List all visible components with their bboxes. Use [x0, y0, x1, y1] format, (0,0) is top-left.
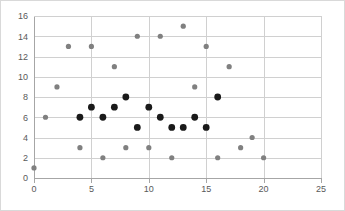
data-point — [192, 84, 197, 89]
data-point — [88, 104, 95, 111]
data-point — [203, 124, 210, 131]
data-point — [89, 44, 94, 49]
data-point — [100, 155, 105, 160]
data-point — [122, 94, 129, 101]
x-axis-tick-label: 5 — [89, 184, 94, 194]
data-point — [204, 44, 209, 49]
data-point — [145, 104, 152, 111]
data-point — [214, 94, 221, 101]
data-point — [238, 145, 243, 150]
y-axis-tick-label: 16 — [18, 11, 28, 21]
data-point — [169, 155, 174, 160]
data-point — [250, 135, 255, 140]
data-point — [54, 84, 59, 89]
data-point — [168, 124, 175, 131]
data-point — [77, 114, 84, 121]
data-point — [99, 114, 106, 121]
data-point — [157, 114, 164, 121]
series-series-black — [77, 94, 222, 131]
chart-container: 02468101214160510152025 — [0, 0, 345, 211]
data-point — [191, 114, 198, 121]
data-point — [43, 115, 48, 120]
y-axis-tick-label: 4 — [23, 133, 28, 143]
data-point — [215, 155, 220, 160]
x-axis-tick-label: 20 — [259, 184, 269, 194]
data-point — [123, 145, 128, 150]
data-point — [181, 24, 186, 29]
scatter-plot: 02468101214160510152025 — [1, 1, 345, 211]
data-point — [111, 104, 118, 111]
data-point — [146, 145, 151, 150]
y-axis-tick-label: 2 — [23, 153, 28, 163]
x-axis-tick-label: 0 — [31, 184, 36, 194]
y-axis-tick-label: 0 — [23, 173, 28, 183]
y-axis-tick-label: 8 — [23, 92, 28, 102]
data-point — [134, 124, 141, 131]
y-axis-tick-label: 10 — [18, 72, 28, 82]
x-axis-tick-label: 15 — [201, 184, 211, 194]
x-axis-tick-label: 10 — [144, 184, 154, 194]
data-point — [180, 124, 187, 131]
data-point — [227, 64, 232, 69]
data-point — [158, 34, 163, 39]
data-point — [66, 44, 71, 49]
x-axis-tick-label: 25 — [316, 184, 326, 194]
data-point — [135, 34, 140, 39]
data-point — [112, 64, 117, 69]
y-axis-tick-label: 12 — [18, 52, 28, 62]
data-point — [261, 155, 266, 160]
data-point — [31, 165, 36, 170]
y-axis-tick-label: 6 — [23, 113, 28, 123]
data-point — [77, 145, 82, 150]
y-axis-tick-label: 14 — [18, 32, 28, 42]
